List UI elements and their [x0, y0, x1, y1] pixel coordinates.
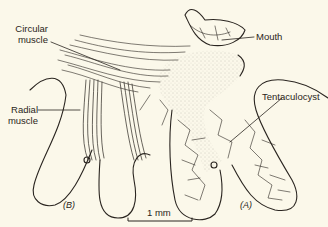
label-panel-b: (B): [63, 200, 75, 211]
label-circular-muscle: Circular muscle: [0, 23, 48, 45]
label-radial-muscle: Radial muscle: [0, 104, 38, 126]
label-tentaculocyst: Tentaculocyst: [262, 91, 320, 102]
left-flap-outline: [30, 78, 92, 205]
mouth-outline: [185, 10, 245, 46]
label-panel-a: (A): [240, 200, 252, 211]
scale-bar: [128, 218, 192, 221]
label-mouth: Mouth: [256, 31, 282, 42]
scale-bar-label: 1 mm: [147, 207, 171, 218]
lobe-b-outline: [99, 154, 150, 218]
stipple-region: [158, 50, 244, 172]
